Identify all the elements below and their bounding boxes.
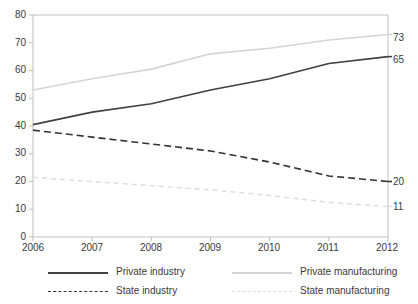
- legend-row-1: Private industry Private manufacturing: [0, 264, 418, 281]
- legend-label-state-manufacturing: State manufacturing: [300, 284, 390, 298]
- legend-swatch-private-manufacturing: [232, 272, 292, 274]
- legend-swatch-state-manufacturing: [232, 291, 292, 292]
- legend-label-private-manufacturing: Private manufacturing: [300, 265, 397, 279]
- series-line-private-industry: [33, 57, 388, 125]
- axis-layer: [29, 15, 388, 241]
- legend-label-private-industry: Private industry: [116, 265, 185, 279]
- plot-area: [0, 0, 418, 304]
- line-chart: 80 70 60 50 40 30 20 10 0 2006 2007 2008…: [0, 0, 418, 304]
- legend-swatch-state-industry: [48, 291, 108, 292]
- chart-legend: Private industry Private manufacturing S…: [0, 264, 418, 304]
- legend-row-2: State industry State manufacturing: [0, 283, 418, 300]
- legend-swatch-private-industry: [48, 272, 108, 274]
- legend-label-state-industry: State industry: [116, 284, 177, 298]
- series-line-state-manufacturing: [33, 177, 388, 206]
- series-line-state-industry: [33, 130, 388, 181]
- series-layer: [33, 34, 392, 206]
